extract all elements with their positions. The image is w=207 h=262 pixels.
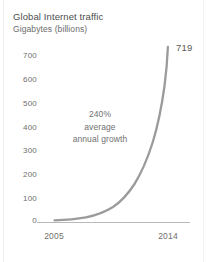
y-tick-0: 0 (11, 216, 37, 225)
y-tick-700: 700 (11, 51, 37, 60)
y-tick-500: 500 (11, 99, 37, 108)
y-tick-600: 600 (11, 75, 37, 84)
growth-annotation-line-2: average (62, 121, 138, 134)
plot-area: 700 600 500 400 300 200 100 0 2005 2014 … (0, 0, 207, 262)
x-tick-2014: 2014 (148, 231, 188, 241)
chart-card: Global Internet traffic Gigabytes (billi… (0, 0, 207, 262)
growth-annotation-line-1: 240% (62, 108, 138, 121)
y-tick-200: 200 (11, 170, 37, 179)
y-tick-300: 300 (11, 146, 37, 155)
growth-annotation: 240% average annual growth (62, 108, 138, 146)
end-value-label: 719 (176, 42, 192, 53)
x-tick-2005: 2005 (34, 231, 74, 241)
y-tick-400: 400 (11, 123, 37, 132)
y-tick-100: 100 (11, 194, 37, 203)
growth-annotation-line-3: annual growth (62, 133, 138, 146)
